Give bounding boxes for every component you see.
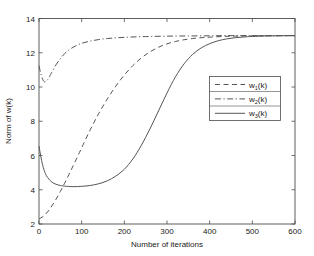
data-curves xyxy=(39,36,295,219)
x-tick-label: 100 xyxy=(75,227,89,236)
legend-label-2: w2(k) xyxy=(248,95,268,105)
x-axis-tick-labels: 0100200300400500600 xyxy=(37,227,302,236)
y-tick-label: 14 xyxy=(26,15,35,24)
y-tick-label: 6 xyxy=(31,152,36,161)
x-axis-ticks xyxy=(39,19,295,225)
x-tick-label: 400 xyxy=(203,227,217,236)
legend: w1(k)w2(k)w3(k) xyxy=(210,77,281,121)
y-tick-label: 4 xyxy=(31,186,36,195)
plot-canvas: 0100200300400500600 2468101214 Number of… xyxy=(0,0,314,256)
y-axis-ticks xyxy=(39,19,295,225)
y-tick-label: 10 xyxy=(26,83,35,92)
y-axis-tick-labels: 2468101214 xyxy=(26,15,35,230)
y-axis-title: Norm of w(k) xyxy=(4,98,13,144)
x-tick-label: 600 xyxy=(288,227,302,236)
x-tick-label: 300 xyxy=(160,227,174,236)
x-tick-label: 0 xyxy=(37,227,42,236)
x-axis-title: Number of iterations xyxy=(131,240,203,249)
x-tick-label: 200 xyxy=(118,227,132,236)
x-tick-label: 500 xyxy=(246,227,260,236)
legend-label-1: w1(k) xyxy=(248,81,268,91)
legend-label-3: w3(k) xyxy=(248,109,268,119)
curve-w2k xyxy=(39,36,295,82)
plot-frame xyxy=(39,19,295,225)
y-tick-label: 12 xyxy=(26,49,35,58)
chart-figure: 0100200300400500600 2468101214 Number of… xyxy=(0,0,314,256)
curve-w1k xyxy=(39,36,295,219)
y-tick-label: 2 xyxy=(31,220,36,229)
y-tick-label: 8 xyxy=(31,117,36,126)
